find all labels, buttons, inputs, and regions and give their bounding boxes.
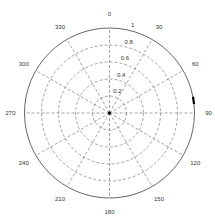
angle-label-180: 180 <box>104 209 115 215</box>
grid-spoke-240 <box>36 113 110 156</box>
grid-spoke-150 <box>110 113 153 187</box>
angle-label-240: 240 <box>19 160 30 166</box>
grid-spoke-30 <box>110 39 153 113</box>
angle-label-60: 60 <box>192 61 199 67</box>
angle-label-30: 30 <box>156 24 163 30</box>
grid-spoke-120 <box>110 113 184 156</box>
radial-label-0.2: 0.2 <box>113 88 122 94</box>
grid-spoke-330 <box>67 39 110 113</box>
angle-label-300: 300 <box>19 61 30 67</box>
radial-tick-labels: 0.20.40.60.81 <box>113 22 135 94</box>
angle-label-210: 210 <box>55 196 66 202</box>
angle-label-150: 150 <box>154 196 165 202</box>
grid-spoke-210 <box>67 113 110 187</box>
data-series <box>108 97 194 115</box>
grid-spoke-300 <box>36 71 110 114</box>
angle-label-0: 0 <box>108 11 112 17</box>
angle-label-90: 90 <box>205 110 212 116</box>
radial-label-1: 1 <box>131 22 135 28</box>
radial-label-0.4: 0.4 <box>117 72 126 78</box>
angle-label-120: 120 <box>190 160 201 166</box>
angle-label-330: 330 <box>55 24 66 30</box>
data-line <box>193 97 194 104</box>
radial-label-0.8: 0.8 <box>125 39 134 45</box>
data-point <box>108 111 111 114</box>
angle-label-270: 270 <box>5 110 16 116</box>
radial-label-0.6: 0.6 <box>121 55 130 61</box>
polar-chart: 0306090120150180210240270300330 0.20.40.… <box>0 0 215 224</box>
